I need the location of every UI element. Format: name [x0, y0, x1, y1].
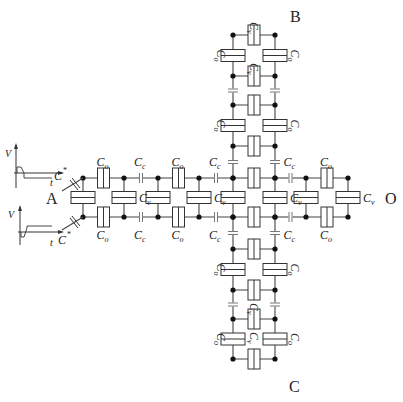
capacitor-box: [263, 264, 287, 276]
junction-node: [230, 246, 235, 251]
capacitor-coupling: [270, 89, 280, 93]
junction-node: [345, 214, 350, 219]
junction-node: [121, 214, 126, 219]
cap-label-cc: Cc: [209, 155, 221, 171]
cap-label-co: Co: [286, 264, 302, 276]
junction-node: [272, 246, 277, 251]
capacitor-box: [321, 207, 333, 227]
capacitor-coupling: [228, 89, 238, 93]
capacitor-box: [112, 192, 136, 204]
capacitor-box: [321, 168, 333, 188]
capacitor-coupling: [270, 160, 280, 164]
junction-node: [121, 175, 126, 180]
cstar-label-top: C: [54, 169, 63, 183]
cap-label-cc: Cc: [134, 155, 146, 171]
cap-label-co: Co: [97, 155, 109, 171]
circuit-diagram: CoCoCcCcCoCoCcCcCcCcCoCoCvCvCvCvCoCoCoCo…: [0, 0, 403, 402]
capacitor-box: [248, 239, 260, 259]
capacitor-box: [173, 168, 185, 188]
junction-node: [230, 32, 235, 37]
junction-node: [155, 214, 160, 219]
cap-label-co: Co: [286, 120, 302, 132]
junction-node: [272, 32, 277, 37]
input-capacitor-top: C *: [54, 166, 83, 191]
cap-label-co: Co: [320, 155, 332, 171]
junction-node: [272, 287, 277, 292]
capacitor-coupling: [228, 231, 238, 235]
capacitor-box: [263, 333, 287, 345]
cap-label-co: Co: [320, 228, 332, 244]
junction-node: [230, 287, 235, 292]
capacitor-box: [263, 192, 287, 204]
junction-node: [230, 356, 235, 361]
junction-node: [272, 73, 277, 78]
capacitor-coupling: [270, 303, 280, 307]
cap-label-co: Co: [286, 50, 302, 62]
v-axis-arrow-icon: [18, 205, 22, 211]
capacitor-coupling: [228, 303, 238, 307]
capacitor-box: [248, 95, 260, 115]
cstar-label-bottom: C: [58, 233, 67, 247]
capacitor-box: [263, 50, 287, 62]
cap-label-co: Co: [286, 333, 302, 345]
capacitor-coupling: [289, 212, 293, 222]
waveform-bottom: V t: [8, 205, 64, 248]
capacitor-box: [248, 207, 260, 227]
capacitor-box: [248, 280, 260, 300]
capacitor-box: [173, 207, 185, 227]
junction-node: [155, 175, 160, 180]
cap-label-cc: Cc: [284, 228, 296, 244]
junction-node: [230, 214, 235, 219]
cap-label-co: Co: [172, 228, 184, 244]
port-label-o: O: [385, 190, 397, 207]
cap-label-co: Co: [97, 228, 109, 244]
junction-node: [230, 143, 235, 148]
junction-node: [230, 73, 235, 78]
junction-node: [196, 175, 201, 180]
capacitor-box: [248, 168, 260, 188]
t-label-bottom: t: [50, 237, 53, 248]
capacitor-coupling: [270, 231, 280, 235]
port-label-b: B: [290, 8, 301, 25]
capacitor-box: [71, 192, 95, 204]
cstar-sup-top: *: [63, 166, 67, 175]
cstar-sup-bottom: *: [67, 230, 71, 239]
v-label-top: V: [5, 148, 13, 159]
junction-node: [272, 356, 277, 361]
junction-node: [230, 175, 235, 180]
cap-label-cv: Cv: [363, 191, 375, 207]
capacitor-coupling: [289, 173, 293, 183]
junction-node: [230, 102, 235, 107]
junction-node: [272, 316, 277, 321]
capacitor-box: [98, 207, 110, 227]
cap-label-co: Co: [172, 155, 184, 171]
cap-label-cv: Cv: [245, 332, 261, 344]
junction-node: [303, 175, 308, 180]
junction-node: [272, 102, 277, 107]
junction-node: [272, 143, 277, 148]
capacitor-box: [248, 136, 260, 156]
junction-node: [272, 214, 277, 219]
capacitor-coupling: [228, 160, 238, 164]
junction-node: [196, 214, 201, 219]
circuit-svg: CoCoCcCcCoCoCcCcCcCcCoCoCvCvCvCvCoCoCoCo…: [0, 0, 403, 402]
port-label-a: A: [46, 190, 58, 207]
cap-label-cc: Cc: [134, 228, 146, 244]
junction-node: [230, 316, 235, 321]
junction-node: [345, 175, 350, 180]
junction-node: [272, 175, 277, 180]
capacitor-box: [336, 192, 360, 204]
capacitor-coupling: [139, 173, 143, 183]
v-label-bottom: V: [8, 209, 16, 220]
cap-label-cc: Cc: [284, 155, 296, 171]
capacitor-coupling: [139, 212, 143, 222]
capacitor-box: [248, 349, 260, 369]
t-label-top: t: [50, 177, 53, 188]
capacitor-coupling: [214, 173, 218, 183]
junction-node: [303, 214, 308, 219]
capacitor-box: [263, 120, 287, 132]
cap-label-cc: Cc: [209, 228, 221, 244]
capacitor-coupling: [214, 212, 218, 222]
port-label-c: C: [289, 378, 300, 395]
v-axis-arrow-icon: [14, 143, 18, 149]
